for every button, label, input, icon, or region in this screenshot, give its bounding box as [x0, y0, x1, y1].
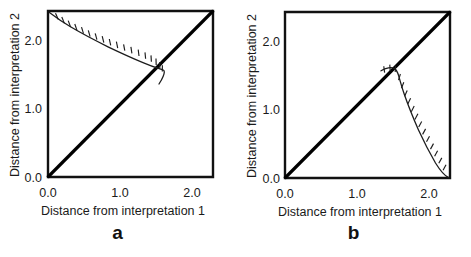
panel-b-xlabel: Distance from interpretation 1 — [278, 205, 442, 219]
panel-b-plot: 0.0 1.0 2.0 0.0 1.0 2.0 Distance from in… — [236, 0, 471, 230]
panel-b-trajectory-line — [381, 68, 449, 178]
panel-b-ytick-2: 2.0 — [263, 35, 280, 49]
panel-a-ylabel: Distance from interpretation 2 — [8, 13, 22, 177]
panel-a-plot: 0.0 1.0 2.0 0.0 1.0 2.0 Distance from in… — [0, 0, 235, 230]
panel-a-trajectory-line — [49, 13, 164, 85]
panel-b-ylabel: Distance from interpretation 2 — [245, 14, 259, 178]
panel-b-xtick-1: 1.0 — [348, 187, 365, 201]
panel-b-trajectory-error-ticks — [384, 65, 446, 171]
panel-b: 0.0 1.0 2.0 0.0 1.0 2.0 Distance from in… — [236, 0, 471, 257]
panel-b-caption: b — [236, 222, 471, 244]
panel-b-ytick-1: 1.0 — [263, 103, 280, 117]
figure-two-panel-trajectory: 0.0 1.0 2.0 0.0 1.0 2.0 Distance from in… — [0, 0, 471, 257]
panel-a-ytick-0: 0.0 — [25, 171, 42, 185]
panel-a-xtick-1: 1.0 — [111, 186, 128, 200]
panel-b-xtick-0: 0.0 — [276, 187, 293, 201]
panel-a-caption: a — [0, 222, 235, 244]
panel-b-identity-diagonal — [286, 13, 449, 177]
panel-a-ytick-1: 1.0 — [25, 102, 42, 116]
panel-a-trajectory-error-ticks — [56, 13, 163, 71]
panel-b-xtick-2: 2.0 — [420, 187, 437, 201]
panel-a: 0.0 1.0 2.0 0.0 1.0 2.0 Distance from in… — [0, 0, 235, 257]
panel-a-xtick-0: 0.0 — [39, 186, 56, 200]
panel-a-ytick-2: 2.0 — [25, 34, 42, 48]
panel-a-identity-diagonal — [49, 12, 212, 176]
panel-b-ytick-0: 0.0 — [263, 172, 280, 186]
panel-a-xlabel: Distance from interpretation 1 — [41, 204, 205, 218]
panel-a-xtick-2: 2.0 — [183, 186, 200, 200]
